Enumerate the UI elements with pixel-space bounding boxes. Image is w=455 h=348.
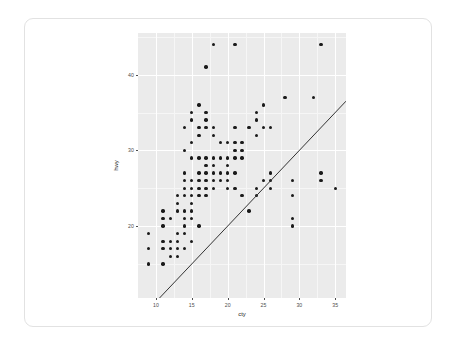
x-tick-label: 35 <box>332 302 338 308</box>
identity-reference-line <box>160 101 346 298</box>
reference-line-layer <box>138 33 346 298</box>
x-tick-mark <box>299 298 300 300</box>
plot-panel <box>138 33 346 298</box>
x-tick-mark <box>264 298 265 300</box>
x-tick-label: 20 <box>225 302 231 308</box>
y-tick-mark <box>136 150 138 151</box>
x-tick-label: 25 <box>261 302 267 308</box>
x-tick-mark <box>335 298 336 300</box>
y-axis-title: hwy <box>109 33 123 298</box>
x-tick-label: 30 <box>296 302 302 308</box>
x-tick-label: 15 <box>189 302 195 308</box>
x-tick-mark <box>156 298 157 300</box>
x-tick-label: 10 <box>153 302 159 308</box>
x-tick-mark <box>228 298 229 300</box>
screenshot-root: 101520253035 203040 cty hwy <box>0 0 455 348</box>
x-tick-mark <box>192 298 193 300</box>
y-tick-mark <box>136 75 138 76</box>
y-tick-mark <box>136 226 138 227</box>
x-axis-title: cty <box>138 311 346 317</box>
plot-card: 101520253035 203040 cty hwy <box>24 18 432 327</box>
scatter-plot-figure: 101520253035 203040 cty hwy <box>25 19 433 328</box>
